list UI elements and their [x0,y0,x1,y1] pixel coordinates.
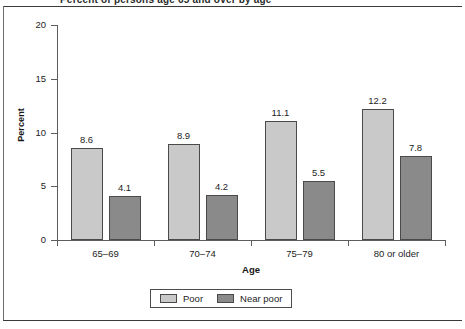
y-axis-tick-label: 5 [18,180,46,191]
x-axis-tick [445,240,446,246]
y-axis-tick-label: 10 [18,127,46,138]
bar-poor-1[interactable] [71,148,103,240]
x-axis-category-label: 80 or older [348,248,445,259]
bar-value-label: 8.6 [63,134,111,145]
y-axis-title: Percent [16,95,26,155]
bar-value-label: 12.2 [354,95,402,106]
bar-poor-4[interactable] [362,109,394,240]
bar-poor-3[interactable] [265,121,297,240]
chart-legend: Poor Near poor [150,289,292,308]
x-axis-tick [251,240,252,246]
bar-value-label: 4.1 [101,182,149,193]
bar-value-label: 5.5 [295,167,343,178]
bar-near-poor-4[interactable] [400,156,432,240]
y-axis-tick-label: 15 [18,73,46,84]
x-axis-tick [57,240,58,246]
legend-entry-near-poor[interactable]: Near poor [217,293,282,304]
y-axis-tick-label: 0 [18,234,46,245]
clipped-page-title: Percent of persons age 65 and over by ag… [60,0,390,5]
legend-swatch-poor [160,294,177,303]
bar-near-poor-1[interactable] [109,196,141,240]
bar-value-label: 8.9 [160,130,208,141]
legend-label-poor: Poor [183,293,203,304]
bar-value-label: 4.2 [198,181,246,192]
legend-entry-poor[interactable]: Poor [160,293,203,304]
page-bottom-rule [3,320,462,321]
bar-chart-figure: Percent 05101520 8.64.18.94.211.15.512.2… [0,8,465,318]
x-axis-category-label: 75–79 [251,248,348,259]
legend-swatch-near-poor [217,294,234,303]
bar-poor-2[interactable] [168,144,200,240]
bar-near-poor-2[interactable] [206,195,238,240]
x-axis-category-label: 65–69 [57,248,154,259]
bar-value-label: 11.1 [257,107,305,118]
plot-area: 8.64.18.94.211.15.512.27.8 [57,25,445,240]
bar-value-label: 7.8 [392,142,440,153]
bar-near-poor-3[interactable] [303,181,335,240]
x-axis-tick [154,240,155,246]
x-axis-category-label: 70–74 [154,248,251,259]
legend-label-near-poor: Near poor [240,293,282,304]
x-axis-tick [348,240,349,246]
y-axis-tick-label: 20 [18,19,46,30]
page-top-rule [3,6,462,7]
x-axis-title: Age [57,264,445,275]
